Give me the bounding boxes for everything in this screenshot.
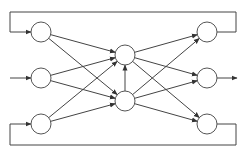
output-node-o2	[197, 68, 217, 88]
output-node-o3	[197, 114, 217, 134]
edge-i3-h2	[51, 104, 116, 122]
edge-i1-h1	[51, 35, 116, 53]
edge-i2-h1	[51, 58, 116, 76]
neural-network-diagram	[0, 0, 247, 154]
edge-h2-o3	[135, 104, 198, 122]
input-node-i2	[31, 68, 51, 88]
edge-i3-h1	[49, 61, 118, 117]
output-node-o1	[197, 22, 217, 42]
hidden-node-h2	[115, 91, 135, 111]
neurons	[31, 22, 217, 134]
edge-h2-o2	[135, 81, 198, 99]
hidden-node-h1	[115, 45, 135, 65]
input-node-i1	[31, 22, 51, 42]
input-node-i3	[31, 114, 51, 134]
edge-h1-o1	[135, 35, 198, 53]
edge-h2-o1	[133, 38, 200, 94]
